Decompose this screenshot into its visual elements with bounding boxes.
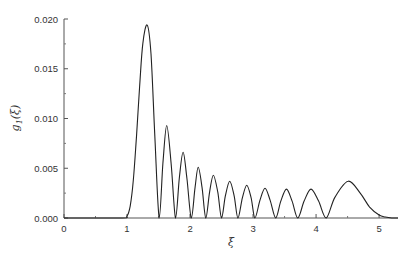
y-tick-label: 0.000 bbox=[34, 213, 58, 224]
y-axis-label-main: g bbox=[9, 124, 22, 131]
x-tick-label: 4 bbox=[313, 223, 318, 234]
y-axis-label-arg: (ξ) bbox=[9, 105, 22, 120]
y-axis: 0.0000.0050.0100.0150.020 bbox=[34, 14, 68, 224]
y-axis-label: g1(ξ) bbox=[9, 105, 24, 132]
data-line bbox=[64, 25, 398, 218]
x-tick-label: 5 bbox=[376, 223, 381, 234]
x-tick-label: 2 bbox=[187, 223, 192, 234]
y-tick-label: 0.015 bbox=[34, 63, 58, 74]
x-tick-label: 3 bbox=[250, 223, 255, 234]
y-tick-label: 0.010 bbox=[34, 113, 58, 124]
x-axis-label: ξ bbox=[228, 236, 235, 249]
svg-text:g1(ξ): g1(ξ) bbox=[9, 105, 24, 132]
x-tick-label: 0 bbox=[61, 223, 66, 234]
chart: 0.0000.0050.0100.0150.020 012345 ξ g1(ξ) bbox=[0, 0, 414, 260]
y-tick-label: 0.020 bbox=[34, 14, 58, 25]
y-tick-label: 0.005 bbox=[34, 163, 58, 174]
x-axis: 012345 bbox=[61, 214, 398, 234]
x-tick-label: 1 bbox=[124, 223, 129, 234]
